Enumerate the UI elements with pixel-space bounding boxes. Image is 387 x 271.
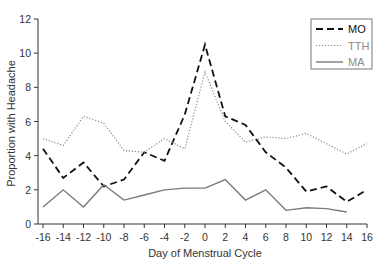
y-axis-title: Proportion with Headache bbox=[5, 60, 17, 187]
x-tick-label: -12 bbox=[76, 231, 91, 243]
x-tick-label: 4 bbox=[243, 231, 249, 243]
y-tick-label: 0 bbox=[25, 218, 31, 230]
line-chart: 024681012 -16-14-12-10-8-6-4-20246810121… bbox=[0, 0, 387, 271]
series-group bbox=[43, 45, 367, 212]
legend-label-mo: MO bbox=[348, 23, 366, 35]
y-tick-label: 2 bbox=[25, 184, 31, 196]
x-tick-label: 8 bbox=[283, 231, 289, 243]
legend-label-ma: MA bbox=[348, 56, 365, 68]
legend: MOTTHMA bbox=[311, 19, 372, 69]
series-line-tth bbox=[43, 72, 367, 154]
x-tick-label: -2 bbox=[180, 231, 189, 243]
x-axis-title: Day of Menstrual Cycle bbox=[148, 247, 262, 259]
y-tick-label: 10 bbox=[19, 47, 31, 59]
x-tick-label: -6 bbox=[140, 231, 149, 243]
chart: 024681012 -16-14-12-10-8-6-4-20246810121… bbox=[0, 0, 387, 271]
x-tick-label: 6 bbox=[263, 231, 269, 243]
x-tick-label: 12 bbox=[321, 231, 333, 243]
x-tick-label: -8 bbox=[119, 231, 128, 243]
y-ticks: 024681012 bbox=[19, 13, 38, 230]
series-line-ma bbox=[43, 180, 347, 212]
x-tick-label: 2 bbox=[222, 231, 228, 243]
x-tick-label: 10 bbox=[300, 231, 312, 243]
x-tick-label: 14 bbox=[341, 231, 353, 243]
y-tick-label: 8 bbox=[25, 81, 31, 93]
x-tick-label: -10 bbox=[96, 231, 111, 243]
x-tick-label: -14 bbox=[56, 231, 71, 243]
y-tick-label: 4 bbox=[25, 150, 31, 162]
x-ticks: -16-14-12-10-8-6-4-20246810121416 bbox=[35, 224, 373, 243]
y-tick-label: 6 bbox=[25, 116, 31, 128]
x-tick-label: -16 bbox=[35, 231, 50, 243]
x-tick-label: 0 bbox=[202, 231, 208, 243]
x-tick-label: 16 bbox=[361, 231, 373, 243]
x-tick-label: -4 bbox=[160, 231, 169, 243]
legend-label-tth: TTH bbox=[348, 40, 369, 52]
y-tick-label: 12 bbox=[19, 13, 31, 25]
